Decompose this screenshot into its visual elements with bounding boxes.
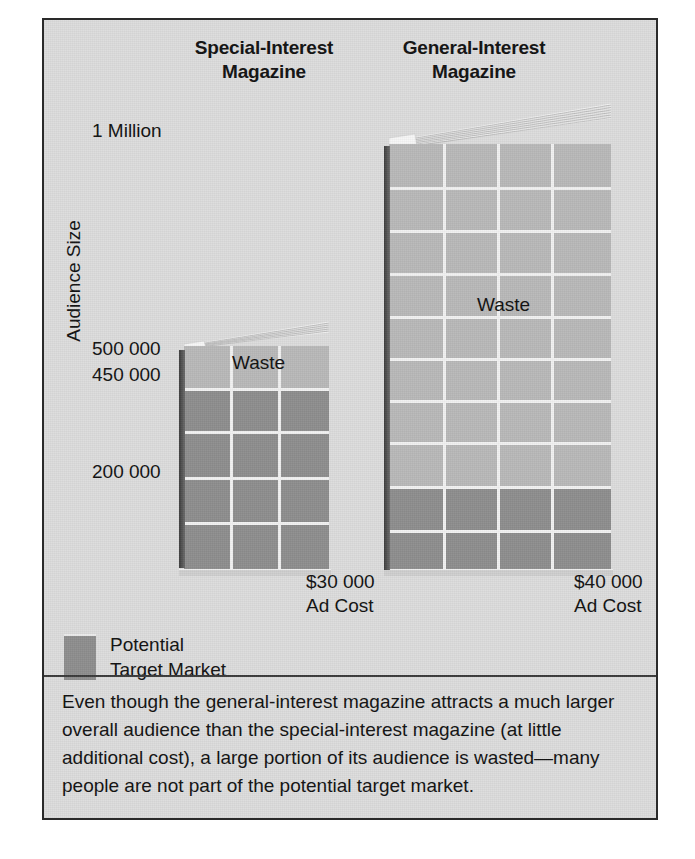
chart-title-general-interest: General-Interest Magazine [374, 36, 574, 84]
ad-cost-caption-special-interest: Ad Cost [306, 594, 375, 618]
stack-body-general-interest [389, 144, 611, 572]
stack-spine-general-interest [384, 146, 390, 570]
y-tick-1-million: 1 Million [92, 120, 162, 142]
title-line-1: Special-Interest [169, 36, 359, 60]
segment-target-market-special-interest [184, 388, 329, 572]
ad-cost-value-general-interest: $40 000 [574, 570, 643, 594]
x-label-special-interest: $30 000 Ad Cost [306, 570, 375, 618]
y-tick-500000: 500 000 [92, 338, 161, 360]
waste-annotation-special-interest: Waste [232, 352, 285, 374]
stack-spine-special-interest [179, 350, 185, 568]
segment-target-market-general-interest [389, 486, 611, 572]
magazine-stack-special-interest: Waste [184, 320, 329, 572]
magazine-stack-general-interest: Waste [389, 102, 611, 572]
legend-label-line-2: Target Market [110, 657, 226, 682]
title-line-2: Magazine [374, 60, 574, 84]
ad-cost-value-special-interest: $30 000 [306, 570, 375, 594]
title-line-1: General-Interest [374, 36, 574, 60]
figure-panel: Special-Interest Magazine General-Intere… [42, 18, 658, 820]
page-fan-general-interest [389, 102, 611, 148]
chart-title-special-interest: Special-Interest Magazine [169, 36, 359, 84]
legend-swatch-target-market [64, 634, 96, 680]
page-fan-special-interest [184, 320, 329, 348]
waste-annotation-general-interest: Waste [477, 294, 530, 316]
x-label-general-interest: $40 000 Ad Cost [574, 570, 643, 618]
plot-area: Special-Interest Magazine General-Intere… [44, 20, 656, 818]
stack-body-special-interest [184, 346, 329, 572]
legend-label-line-1: Potential [110, 632, 226, 657]
ad-cost-caption-general-interest: Ad Cost [574, 594, 643, 618]
figure-page: Special-Interest Magazine General-Intere… [0, 0, 695, 859]
caption-divider [44, 675, 656, 677]
y-tick-200000: 200 000 [92, 461, 161, 483]
title-line-2: Magazine [169, 60, 359, 84]
figure-caption: Even though the general-interest magazin… [62, 688, 640, 800]
y-axis-title: Audience Size [63, 201, 85, 361]
y-tick-450000: 450 000 [92, 364, 161, 386]
